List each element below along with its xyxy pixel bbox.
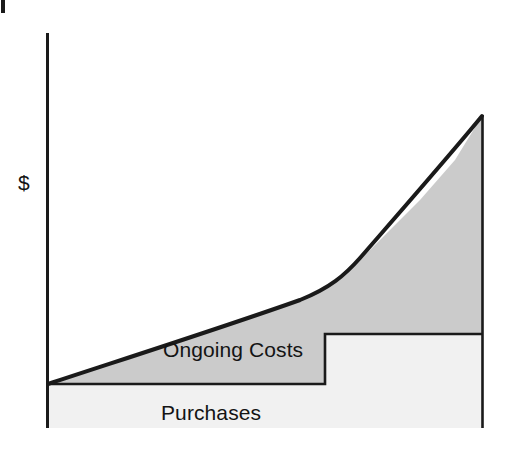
y-axis-label: $ (18, 172, 30, 193)
ongoing-costs-label: Ongoing Costs (163, 339, 303, 360)
cost-structure-chart: $ Ongoing Costs Purchases (0, 0, 511, 453)
purchases-label: Purchases (161, 402, 261, 423)
chart-canvas (0, 0, 511, 453)
